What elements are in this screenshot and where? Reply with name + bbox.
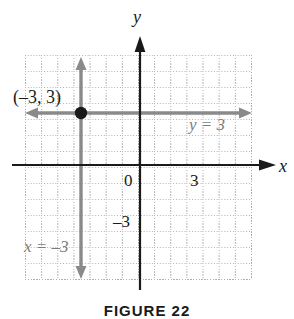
plotted-point-marker — [75, 107, 87, 119]
figure-caption: FIGURE 22 — [0, 302, 294, 319]
y-tick-label-minus-3: –3 — [113, 213, 130, 230]
origin-label: 0 — [124, 172, 133, 189]
y-axis-label: y — [133, 8, 141, 26]
x-tick-label-3: 3 — [190, 172, 199, 189]
x-axis-label: x — [279, 157, 287, 175]
horizontal-line-equation-label: y = 3 — [189, 116, 225, 133]
vertical-line-equation-label: x = –3 — [24, 238, 69, 255]
point-coordinate-label: (–3, 3) — [13, 88, 61, 106]
